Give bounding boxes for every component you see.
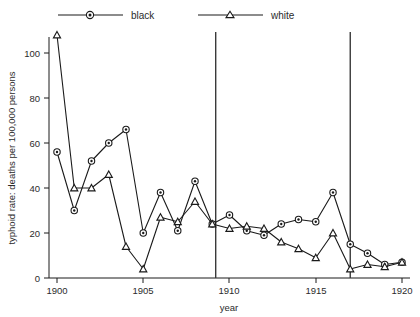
x-tick-label-1900: 1900 — [46, 285, 67, 296]
data-point-dot-black-1917 — [349, 243, 351, 245]
data-point-white-1906[interactable] — [157, 214, 164, 220]
data-point-dot-black-1915 — [315, 221, 317, 223]
data-point-dot-black-1918 — [366, 252, 368, 254]
legend-label-white: white — [270, 10, 295, 21]
data-point-white-1915[interactable] — [312, 254, 319, 260]
data-point-dot-black-1901 — [73, 209, 75, 211]
y-tick-label-100: 100 — [24, 48, 40, 59]
data-point-dot-black-1916 — [332, 191, 334, 193]
y-tick-label-0: 0 — [35, 273, 40, 284]
data-point-dot-black-1900 — [56, 151, 58, 153]
y-axis-title: typhoid rate: deaths per 100,000 persons — [6, 71, 17, 244]
y-tick-label-80: 80 — [29, 93, 40, 104]
data-point-dot-black-1913 — [280, 223, 282, 225]
data-point-dot-black-1905 — [142, 232, 144, 234]
x-axis: 1900 1905 1910 1915 1920 year — [46, 278, 412, 313]
x-tick-label-1915: 1915 — [305, 285, 326, 296]
series-black — [54, 126, 405, 267]
data-point-white-1918[interactable] — [364, 261, 371, 267]
y-axis: 100 80 60 40 20 0 typhoid rate: deaths p… — [6, 37, 49, 284]
data-point-dot-black-1902 — [90, 160, 92, 162]
y-axis-ticks — [44, 53, 49, 278]
data-point-white-1911[interactable] — [243, 223, 250, 229]
legend-item-white[interactable]: white — [198, 10, 295, 21]
y-tick-label-60: 60 — [29, 138, 40, 149]
x-axis-tick-labels: 1900 1905 1910 1915 1920 — [46, 285, 412, 296]
chart-page: 100 80 60 40 20 0 typhoid rate: deaths p… — [0, 0, 420, 317]
x-axis-title: year — [220, 302, 238, 313]
data-point-dot-black-1914 — [297, 218, 299, 220]
legend-label-black: black — [131, 10, 155, 21]
data-point-dot-black-1906 — [159, 191, 161, 193]
data-point-white-1916[interactable] — [329, 229, 336, 235]
data-point-white-1908[interactable] — [191, 198, 198, 204]
y-tick-label-20: 20 — [29, 228, 40, 239]
y-tick-label-40: 40 — [29, 183, 40, 194]
data-point-white-1900[interactable] — [53, 31, 60, 37]
data-point-white-1904[interactable] — [122, 243, 129, 249]
data-point-dot-black-1904 — [125, 128, 127, 130]
x-tick-label-1910: 1910 — [218, 285, 239, 296]
data-point-dot-black-1912 — [263, 234, 265, 236]
typhoid-rate-line-chart: 100 80 60 40 20 0 typhoid rate: deaths p… — [0, 0, 420, 317]
data-point-dot-black-1908 — [194, 180, 196, 182]
legend-marker-circle-dot — [89, 14, 92, 17]
y-axis-tick-labels: 100 80 60 40 20 0 — [24, 48, 40, 284]
data-point-dot-black-1911 — [246, 230, 248, 232]
legend-item-black[interactable]: black — [58, 10, 155, 21]
data-point-white-1914[interactable] — [295, 245, 302, 251]
series-white — [53, 31, 405, 271]
data-point-dot-black-1910 — [228, 214, 230, 216]
legend: black white — [58, 10, 295, 21]
x-tick-label-1905: 1905 — [132, 285, 153, 296]
data-point-white-1903[interactable] — [105, 171, 112, 177]
x-tick-label-1920: 1920 — [391, 285, 412, 296]
data-point-dot-black-1907 — [177, 230, 179, 232]
data-point-dot-black-1903 — [108, 142, 110, 144]
series-layer — [53, 31, 405, 271]
x-axis-ticks — [57, 278, 402, 283]
